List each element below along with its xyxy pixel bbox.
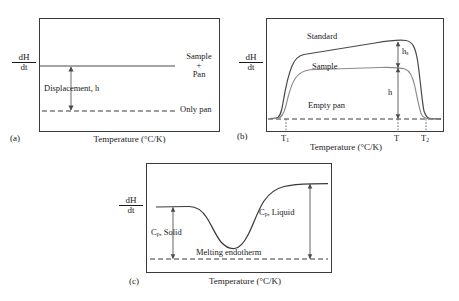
panel-c-cp-solid-arrow-head-down — [171, 254, 176, 259]
panel-c-cp-solid-arrow-head-up — [171, 207, 176, 212]
panel-c-cp-liquid-arrow-head-down — [308, 254, 313, 259]
panel-c-cp-solid-suffix: , Solid — [159, 227, 181, 237]
panel-c-cp-liquid-label: Cp, Liquid — [259, 208, 294, 218]
panel-c-x-axis-label: Temperature (°C/K) — [160, 276, 330, 286]
panel-c-letter: (c) — [129, 276, 139, 286]
panel-c-cp-solid-label: Cp, Solid — [151, 228, 182, 238]
panel-c-melting-curve — [156, 184, 328, 249]
panel-c-melting-endotherm-label: Melting endotherm — [196, 248, 261, 257]
panel-c-cp-liquid-suffix: , Liquid — [267, 207, 294, 217]
